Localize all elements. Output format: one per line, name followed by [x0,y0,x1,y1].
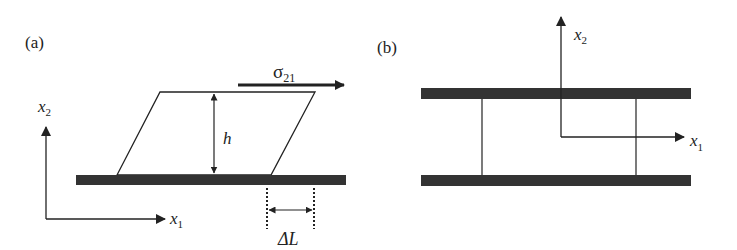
sheared-block [117,92,315,175]
shear-diagram: (a) h σ21 x2 x1 ΔL (b) x2 x1 [0,0,737,250]
panel-b: (b) x2 x1 [377,17,703,186]
displacement-label: ΔL [277,229,299,249]
panel-b-label: (b) [377,38,397,57]
stress-label: σ21 [273,61,295,85]
panel-a-label: (a) [25,33,44,52]
x1-axis-label: x1 [689,131,703,153]
x1-axis-label: x1 [169,209,183,230]
x2-axis-label: x2 [37,97,51,118]
top-plate [421,88,691,99]
bottom-plate [76,175,346,185]
panel-a: (a) h σ21 x2 x1 ΔL [25,33,346,249]
bottom-plate [421,175,691,186]
x2-axis-label: x2 [573,25,587,46]
height-label: h [223,129,232,148]
